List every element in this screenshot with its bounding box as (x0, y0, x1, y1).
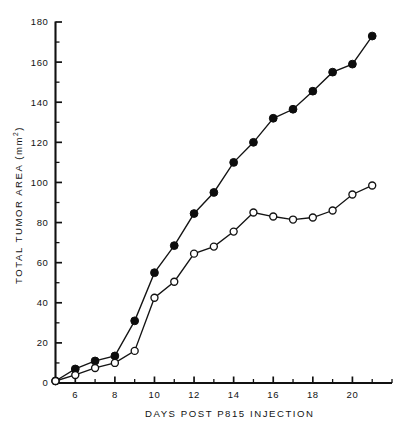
x-tick-label: 10 (149, 389, 161, 400)
filled-circle-series-point[interactable] (368, 32, 376, 40)
open-circle-series-point[interactable] (92, 364, 99, 371)
open-circle-series-point[interactable] (191, 250, 198, 257)
y-tick-label: 60 (37, 257, 49, 268)
filled-circle-series-point[interactable] (289, 105, 297, 113)
y-tick-label: 80 (37, 217, 49, 228)
open-circle-series-point[interactable] (151, 294, 158, 301)
y-tick-label: 180 (31, 16, 49, 27)
y-axis-title: TOTAL TUMOR AREA (mm2) (12, 126, 24, 284)
x-tick-label: 12 (188, 389, 200, 400)
x-tick-label: 6 (72, 389, 78, 400)
filled-circle-series-point[interactable] (250, 138, 258, 146)
open-circle-series-point[interactable] (111, 359, 118, 366)
open-circle-series-point[interactable] (171, 278, 178, 285)
filled-circle-series-point[interactable] (309, 87, 317, 95)
open-circle-series-line (56, 185, 373, 381)
y-tick-label: 0 (43, 377, 49, 388)
tumor-area-line-chart: 02040608010012014016018068101214161820DA… (0, 0, 402, 433)
filled-circle-series-point[interactable] (91, 357, 99, 365)
y-axis-title-group: TOTAL TUMOR AREA (mm2) (12, 126, 24, 284)
y-tick-label: 160 (31, 57, 49, 68)
open-circle-series-point[interactable] (250, 209, 257, 216)
filled-circle-series-point[interactable] (329, 68, 337, 76)
open-circle-series-point[interactable] (72, 371, 79, 378)
open-circle-series-point[interactable] (309, 214, 316, 221)
y-tick-label: 40 (37, 297, 49, 308)
y-tick-label: 100 (31, 177, 49, 188)
y-tick-label: 140 (31, 97, 49, 108)
x-tick-label: 14 (228, 389, 240, 400)
open-circle-series-point[interactable] (329, 207, 336, 214)
filled-circle-series-point[interactable] (269, 114, 277, 122)
filled-circle-series-point[interactable] (210, 189, 218, 197)
filled-circle-series-point[interactable] (349, 60, 357, 68)
y-tick-label: 120 (31, 137, 49, 148)
y-tick-label: 20 (37, 337, 49, 348)
open-circle-series-point[interactable] (270, 213, 277, 220)
open-circle-series-point[interactable] (131, 347, 138, 354)
filled-circle-series-point[interactable] (151, 269, 159, 277)
filled-circle-series-line (56, 36, 373, 381)
open-circle-series-point[interactable] (290, 216, 297, 223)
open-circle-series-point[interactable] (349, 191, 356, 198)
x-tick-label: 16 (267, 389, 279, 400)
filled-circle-series-point[interactable] (230, 158, 238, 166)
chart-figure: 02040608010012014016018068101214161820DA… (0, 0, 402, 433)
x-tick-label: 8 (112, 389, 118, 400)
x-axis-title: DAYS POST P815 INJECTION (145, 408, 315, 419)
x-tick-label: 18 (307, 389, 319, 400)
x-tick-label: 20 (347, 389, 359, 400)
open-circle-series-point[interactable] (369, 182, 376, 189)
open-circle-series-point[interactable] (52, 377, 59, 384)
open-circle-series-point[interactable] (210, 243, 217, 250)
filled-circle-series-point[interactable] (131, 317, 139, 325)
filled-circle-series-point[interactable] (111, 352, 119, 360)
filled-circle-series-point[interactable] (190, 210, 198, 218)
filled-circle-series-point[interactable] (170, 242, 178, 250)
open-circle-series-point[interactable] (230, 228, 237, 235)
